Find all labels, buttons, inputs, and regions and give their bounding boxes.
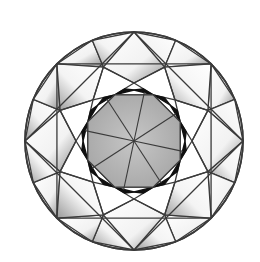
diamond-diagram xyxy=(0,0,260,262)
facet-group xyxy=(25,32,243,250)
diamond-facet-drawing xyxy=(0,0,260,262)
